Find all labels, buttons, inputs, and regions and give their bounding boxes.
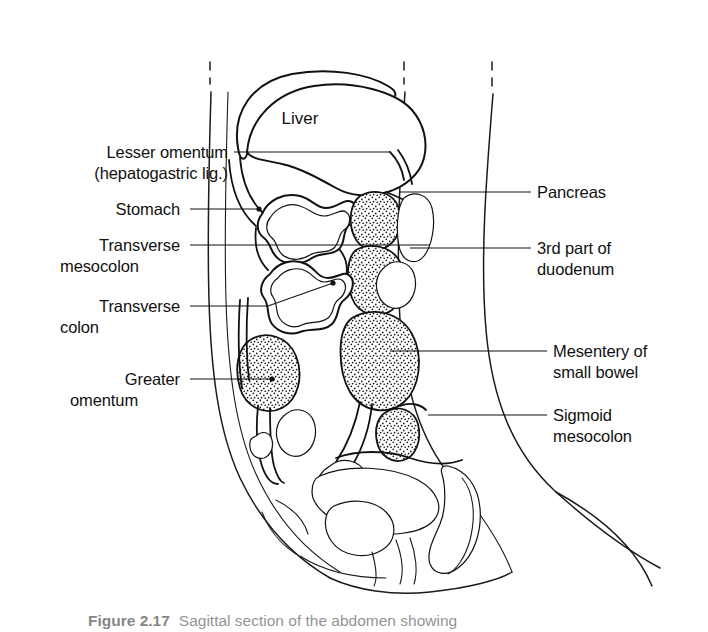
label-lesser-omentum-line1: Lesser omentum — [107, 143, 229, 161]
right-labels: Pancreas 3rd part of duodenum Mesentery … — [537, 183, 648, 445]
figure-caption-number: Figure 2.17 — [88, 612, 170, 629]
label-transverse-colon-line2: colon — [60, 318, 99, 336]
pelvic-organs — [262, 452, 480, 586]
label-greater-omentum-line2: omentum — [70, 391, 138, 409]
label-pancreas: Pancreas — [537, 183, 606, 201]
figure-caption: Figure 2.17Sagittal section of the abdom… — [88, 612, 688, 630]
label-mesentery-line1: Mesentery of — [553, 342, 648, 360]
leader-dot-stomach — [256, 206, 261, 211]
leader-dot-transverse-colon — [330, 280, 335, 285]
anatomy-figure: Liver Lesser omentum (hepatogastric lig.… — [0, 0, 708, 632]
label-sigmoid-mesocolon-line1: Sigmoid — [553, 406, 612, 424]
small-bowel-loop-upper — [376, 262, 415, 309]
label-stomach: Stomach — [116, 200, 180, 218]
label-duodenum-line2: duodenum — [537, 260, 614, 278]
pancreas-organ — [351, 192, 401, 250]
duodenum-organ — [397, 194, 433, 262]
organ-labels: Liver — [282, 109, 319, 128]
figure-caption-row: Figure 2.17Sagittal section of the abdom… — [0, 612, 708, 632]
label-duodenum-line1: 3rd part of — [537, 239, 612, 257]
figure-caption-text: Sagittal section of the abdomen showing — [179, 612, 457, 629]
left-labels: Lesser omentum (hepatogastric lig.) Stom… — [60, 143, 228, 409]
label-transverse-mesocolon-line2: mesocolon — [60, 257, 139, 275]
label-lesser-omentum-line2: (hepatogastric lig.) — [94, 164, 228, 182]
label-greater-omentum-line1: Greater — [125, 370, 181, 388]
label-sigmoid-mesocolon-line2: mesocolon — [553, 427, 632, 445]
liver-organ — [237, 71, 426, 206]
leader-dot-greater-omentum — [269, 376, 274, 381]
label-transverse-colon-line1: Transverse — [99, 297, 180, 315]
transverse-colon-organ — [261, 261, 353, 333]
label-transverse-mesocolon-line1: Transverse — [99, 236, 180, 254]
label-mesentery-line2: small bowel — [553, 363, 638, 381]
organ-label-liver: Liver — [282, 109, 319, 128]
sagittal-abdomen-diagram: Liver Lesser omentum (hepatogastric lig.… — [0, 0, 708, 632]
